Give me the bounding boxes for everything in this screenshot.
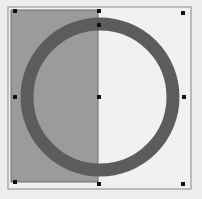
handle-center[interactable] xyxy=(97,95,101,99)
handle-bottom-left[interactable] xyxy=(13,180,17,184)
handle-top-left[interactable] xyxy=(13,9,17,13)
handle-middle-right[interactable] xyxy=(182,95,186,99)
handle-bottom-center[interactable] xyxy=(97,182,101,186)
drawing-canvas[interactable] xyxy=(0,0,202,199)
handle-top-center[interactable] xyxy=(97,9,101,13)
handle-ring-top[interactable] xyxy=(97,23,101,27)
handle-bottom-right[interactable] xyxy=(181,182,185,186)
handle-top-right[interactable] xyxy=(181,11,185,15)
handle-middle-left[interactable] xyxy=(13,95,17,99)
drawing-svg[interactable] xyxy=(0,0,202,199)
